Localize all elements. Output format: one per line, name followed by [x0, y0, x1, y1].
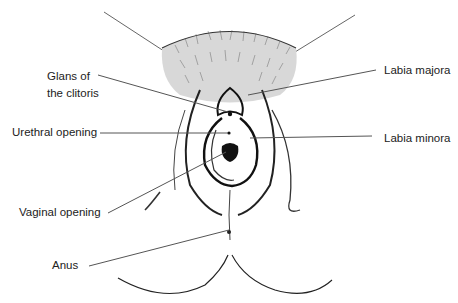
leader-anus — [89, 230, 229, 266]
label-glans-line1: Glans of — [47, 68, 99, 85]
label-anus: Anus — [52, 257, 78, 274]
label-urethral-opening: Urethral opening — [12, 124, 97, 141]
leader-minora — [250, 136, 372, 138]
leader-vaginal — [108, 152, 226, 213]
right-thigh-fold — [272, 110, 300, 211]
anatomy-diagram: Glans of the clitoris Urethral opening V… — [0, 0, 458, 303]
left-buttock-curve — [118, 255, 228, 294]
label-labia-minora: Labia minora — [384, 130, 450, 147]
label-vaginal-opening: Vaginal opening — [19, 204, 101, 221]
left-fold-mark — [145, 192, 160, 210]
right-crease-line — [295, 15, 355, 52]
label-glans-of-clitoris: Glans of the clitoris — [47, 68, 99, 102]
glans — [228, 112, 232, 116]
left-crease-line — [104, 12, 170, 55]
mons-hair — [162, 32, 297, 103]
right-buttock-curve — [232, 255, 332, 293]
label-glans-line2: the clitoris — [47, 85, 99, 102]
label-labia-majora: Labia majora — [384, 62, 450, 79]
